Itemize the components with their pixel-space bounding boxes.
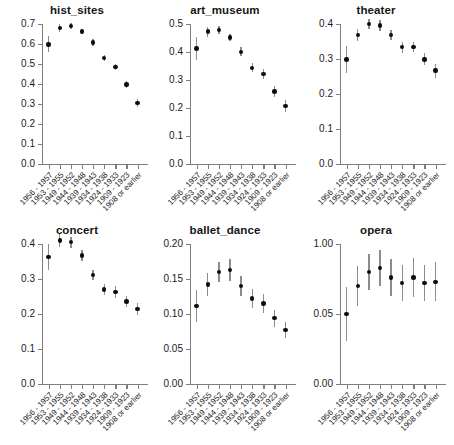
x-axis-tick bbox=[241, 385, 242, 389]
y-axis-tick bbox=[336, 94, 340, 95]
x-axis-tick bbox=[219, 165, 220, 169]
y-axis-tick bbox=[186, 136, 190, 137]
x-axis-tick bbox=[402, 385, 403, 389]
y-axis-tick bbox=[38, 384, 42, 385]
x-axis-tick bbox=[93, 165, 94, 169]
y-axis-line bbox=[42, 244, 43, 385]
chart-panel-hist-sites: hist_sites0.00.10.20.30.40.50.60.71956 -… bbox=[2, 2, 152, 224]
data-point bbox=[411, 45, 415, 49]
data-point bbox=[367, 270, 371, 274]
data-point bbox=[206, 29, 210, 33]
y-axis-tick-label: 0.3 bbox=[2, 274, 35, 284]
y-axis-tick bbox=[38, 244, 42, 245]
x-axis-tick bbox=[197, 165, 198, 169]
data-point bbox=[135, 101, 139, 105]
x-axis-tick bbox=[60, 165, 61, 169]
data-point bbox=[102, 56, 106, 60]
y-axis-tick bbox=[38, 349, 42, 350]
x-axis-tick bbox=[369, 165, 370, 169]
y-axis-tick bbox=[186, 314, 190, 315]
data-point bbox=[217, 270, 221, 274]
y-axis-tick bbox=[38, 44, 42, 45]
x-axis-tick bbox=[263, 385, 264, 389]
y-axis-line bbox=[190, 24, 191, 165]
data-point bbox=[261, 301, 265, 305]
x-axis-tick bbox=[208, 385, 209, 389]
y-axis-tick bbox=[38, 124, 42, 125]
data-point bbox=[356, 33, 360, 37]
x-axis-tick bbox=[424, 385, 425, 389]
y-axis-tick bbox=[336, 24, 340, 25]
y-axis-tick-label: 0.0 bbox=[2, 159, 35, 169]
data-point bbox=[228, 268, 232, 272]
y-axis-tick-label: 0.2 bbox=[2, 119, 35, 129]
y-axis-tick bbox=[186, 164, 190, 165]
y-axis-tick bbox=[186, 384, 190, 385]
chart-title: hist_sites bbox=[2, 4, 152, 16]
y-axis-tick-label: 0.1 bbox=[300, 124, 333, 134]
y-axis-tick-label: 0.10 bbox=[150, 309, 183, 319]
y-axis-tick bbox=[336, 244, 340, 245]
data-point bbox=[422, 281, 426, 285]
x-axis-tick bbox=[252, 385, 253, 389]
x-axis-tick bbox=[380, 385, 381, 389]
x-axis-tick bbox=[263, 165, 264, 169]
x-axis-tick bbox=[252, 165, 253, 169]
y-axis-tick-label: 1.00 bbox=[300, 239, 333, 249]
y-axis-tick bbox=[186, 108, 190, 109]
data-point bbox=[69, 24, 73, 28]
data-point bbox=[356, 284, 360, 288]
y-axis-tick-label: 0.20 bbox=[150, 239, 183, 249]
data-point bbox=[80, 29, 84, 33]
y-axis-tick-label: 0.4 bbox=[150, 47, 183, 57]
data-point bbox=[272, 89, 276, 93]
data-point bbox=[91, 40, 95, 44]
y-axis-tick bbox=[186, 349, 190, 350]
y-axis-tick bbox=[186, 80, 190, 81]
x-axis-tick bbox=[436, 165, 437, 169]
y-axis-tick-label: 0.3 bbox=[2, 99, 35, 109]
y-axis-tick-label: 0.0 bbox=[300, 159, 333, 169]
x-axis-tick bbox=[82, 165, 83, 169]
data-point bbox=[400, 45, 404, 49]
y-axis-tick-label: 0.3 bbox=[150, 75, 183, 85]
figure-panel-grid: hist_sites0.00.10.20.30.40.50.60.71956 -… bbox=[0, 0, 454, 445]
data-point bbox=[433, 68, 437, 72]
x-axis-tick bbox=[208, 165, 209, 169]
data-point bbox=[283, 104, 287, 108]
x-axis-tick bbox=[230, 385, 231, 389]
data-point bbox=[102, 287, 106, 291]
y-axis-tick bbox=[186, 279, 190, 280]
y-axis-tick bbox=[38, 144, 42, 145]
data-point bbox=[389, 33, 393, 37]
y-axis-tick bbox=[336, 59, 340, 60]
x-axis-tick bbox=[49, 385, 50, 389]
y-axis-tick-label: 0.05 bbox=[300, 309, 333, 319]
x-axis-tick bbox=[436, 385, 437, 389]
y-axis-tick-label: 0.3 bbox=[300, 54, 333, 64]
data-point bbox=[433, 280, 437, 284]
x-axis-tick bbox=[219, 385, 220, 389]
y-axis-tick-label: 0.1 bbox=[150, 131, 183, 141]
x-axis-line bbox=[340, 164, 446, 165]
chart-title: opera bbox=[300, 224, 452, 236]
y-axis-tick-label: 0.4 bbox=[2, 79, 35, 89]
y-axis-line bbox=[340, 244, 341, 385]
y-axis-tick-label: 0.2 bbox=[2, 309, 35, 319]
chart-panel-ballet-dance: ballet_dance0.000.050.100.150.201956 - 1… bbox=[150, 222, 300, 445]
x-axis-tick bbox=[71, 165, 72, 169]
y-axis-tick-label: 0.5 bbox=[150, 19, 183, 29]
x-axis-tick bbox=[274, 165, 275, 169]
x-axis-tick bbox=[126, 165, 127, 169]
x-axis-tick bbox=[138, 165, 139, 169]
y-axis-tick-label: 0.4 bbox=[2, 239, 35, 249]
x-axis-tick bbox=[402, 165, 403, 169]
x-axis-tick bbox=[358, 165, 359, 169]
y-axis-tick bbox=[38, 314, 42, 315]
x-axis-tick bbox=[391, 165, 392, 169]
y-axis-tick bbox=[336, 129, 340, 130]
y-axis-tick bbox=[186, 244, 190, 245]
chart-panel-opera: opera0.000.051.001956 - 19571953 - 19551… bbox=[300, 222, 452, 445]
data-point bbox=[46, 42, 50, 46]
x-axis-tick bbox=[115, 385, 116, 389]
